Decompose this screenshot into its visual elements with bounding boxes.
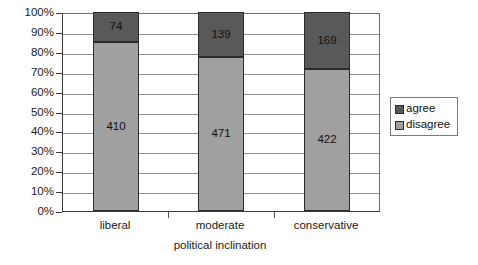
x-axis-category-label: conservative — [266, 219, 386, 232]
y-axis-tick-label: 100% — [2, 7, 54, 19]
y-axis-tick-label: 50% — [2, 107, 54, 119]
legend-item-label: agree — [406, 103, 435, 115]
bar-value-label: 169 — [317, 35, 336, 47]
y-axis-tick-label: 0% — [2, 206, 54, 218]
stacked-bar-chart: 100%90%80%70%60%50%40%30%20%10%0% 410744… — [0, 0, 478, 265]
y-axis-tick-label: 10% — [2, 186, 54, 198]
legend-item[interactable]: agree — [395, 101, 457, 117]
legend-item[interactable]: disagree — [395, 117, 457, 133]
bar-value-label: 410 — [106, 121, 125, 133]
bar-value-label: 74 — [110, 21, 123, 33]
x-axis-title: political inclination — [0, 239, 440, 252]
x-axis-category-label: moderate — [160, 219, 280, 232]
y-axis-tick-label: 40% — [2, 126, 54, 138]
y-axis-tick-label: 30% — [2, 146, 54, 158]
bar-segment: 74 — [93, 12, 139, 42]
legend-swatch-icon — [395, 105, 404, 114]
y-axis-tick-label: 70% — [2, 67, 54, 79]
y-axis-tick-label: 20% — [2, 166, 54, 178]
legend-items: agreedisagree — [395, 101, 457, 133]
bar-group: 422169 — [304, 12, 350, 211]
legend-swatch-icon — [395, 121, 404, 130]
bar-value-label: 422 — [317, 134, 336, 146]
y-axis-tick-mark — [56, 212, 62, 213]
bar-value-label: 471 — [211, 128, 230, 140]
bar-value-label: 139 — [211, 29, 230, 41]
y-axis-tick-label: 60% — [2, 87, 54, 99]
y-axis-tick-label: 90% — [2, 27, 54, 39]
bar-segment: 410 — [93, 42, 139, 211]
y-axis-tick-label: 80% — [2, 47, 54, 59]
bar-segment: 422 — [304, 69, 350, 211]
x-axis-tick-mark — [168, 212, 169, 218]
plot-area: 41074471139422169 — [62, 13, 380, 212]
bar-group: 41074 — [93, 12, 139, 211]
legend: agreedisagree — [390, 97, 458, 136]
bar-segment: 169 — [304, 12, 350, 69]
x-axis-category-label: liberal — [55, 219, 175, 232]
legend-item-label: disagree — [406, 119, 450, 131]
bar-group: 471139 — [198, 12, 244, 211]
x-axis-tick-mark — [274, 212, 275, 218]
bar-segment: 471 — [198, 57, 244, 211]
bar-segment: 139 — [198, 12, 244, 57]
